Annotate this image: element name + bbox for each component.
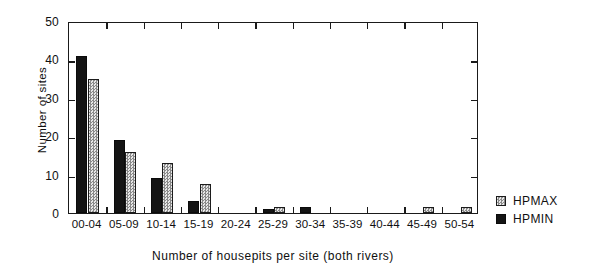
- plot-area: [68, 22, 478, 214]
- y-tick-label: 20: [33, 131, 59, 143]
- y-tick-label: 30: [33, 93, 59, 105]
- bar-hpmin-25-29: [263, 209, 274, 213]
- bar-hpmax-00-04: [88, 79, 99, 213]
- legend-item-hpmax[interactable]: HPMAX: [496, 192, 591, 209]
- y-axis-tick-labels: 01020304050: [33, 0, 59, 279]
- y-tick-label: 10: [33, 170, 59, 182]
- x-tick-label: 50-54: [433, 217, 485, 231]
- legend-item-hpmin[interactable]: HPMIN: [496, 210, 591, 227]
- bar-hpmax-50-54: [461, 207, 472, 213]
- legend-label: HPMAX: [513, 194, 558, 208]
- y-tick-label: 50: [33, 16, 59, 28]
- bar-hpmax-10-14: [162, 163, 173, 213]
- x-axis-title: Number of housepits per site (both river…: [68, 249, 478, 263]
- y-tick-label: 0: [33, 208, 59, 220]
- legend-swatch-hpmin-icon: [496, 214, 506, 224]
- bar-hpmax-45-49: [423, 207, 434, 213]
- bar-hpmin-00-04: [76, 56, 87, 213]
- legend-label: HPMIN: [513, 212, 554, 226]
- bar-hpmax-05-09: [125, 152, 136, 213]
- bar-hpmin-30-34: [300, 207, 311, 213]
- bar-hpmin-10-14: [151, 178, 162, 213]
- legend-swatch-hpmax-icon: [496, 196, 506, 206]
- bar-hpmin-15-19: [188, 201, 199, 213]
- bar-hpmax-25-29: [274, 207, 285, 213]
- bar-hpmax-15-19: [200, 184, 211, 213]
- bar-series-group: [69, 23, 477, 213]
- bar-hpmin-05-09: [114, 140, 125, 213]
- bar-chart-figure: Number of sites 01020304050 00-0405-0910…: [0, 0, 593, 279]
- x-axis-tick-labels: 00-0405-0910-1415-1920-2425-2930-3435-39…: [68, 217, 478, 235]
- chart-legend: HPMAXHPMIN: [496, 192, 591, 228]
- y-tick-label: 40: [33, 54, 59, 66]
